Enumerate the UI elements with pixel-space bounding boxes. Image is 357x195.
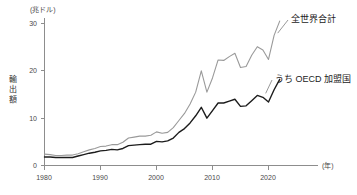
y-tick-label-30: 30 [29, 20, 37, 27]
y-axis-title: 輸 出 額 [9, 74, 17, 104]
series-label-world-total: 全世界合計 [291, 13, 336, 24]
y-tick-label-0: 0 [33, 162, 37, 169]
x-tick-label-2020: 2020 [260, 174, 276, 181]
y-axis-ticks [41, 24, 45, 166]
x-axis-ticks [45, 166, 269, 170]
export-value-line-chart: 30 20 10 0 (兆ドル) 輸 出 額 1980 1990 2000 20… [0, 0, 357, 195]
y-axis-title-char-1: 出 [9, 84, 17, 94]
x-tick-label-1980: 1980 [36, 174, 52, 181]
series-line-oecd-members [45, 79, 280, 157]
y-tick-label-20: 20 [29, 67, 37, 74]
x-axis-title: (年) [322, 161, 334, 170]
series-line-world-total [45, 21, 280, 155]
y-axis-unit-label: (兆ドル) [30, 5, 56, 14]
leader-line-oecd-members [266, 80, 272, 93]
y-tick-label-10: 10 [29, 115, 37, 122]
y-axis-title-char-0: 輸 [9, 74, 17, 84]
y-axis-title-char-2: 額 [9, 94, 17, 104]
x-tick-label-1990: 1990 [92, 174, 108, 181]
series-label-oecd-members: うち OECD 加盟国 [275, 74, 351, 84]
chart-canvas: 30 20 10 0 (兆ドル) 輸 出 額 1980 1990 2000 20… [0, 0, 357, 195]
x-tick-label-2010: 2010 [204, 174, 220, 181]
x-tick-label-2000: 2000 [148, 174, 164, 181]
